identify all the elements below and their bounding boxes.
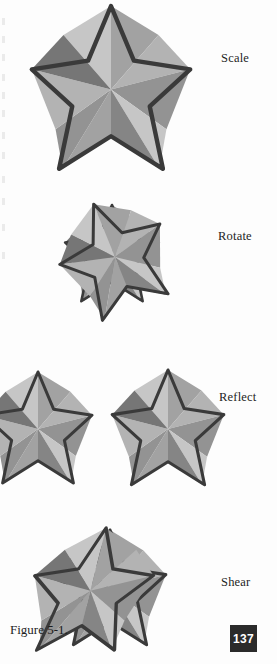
figure-caption: Figure 5-1. bbox=[10, 622, 68, 638]
book-page: .f-a{fill:#c6c6c6} .f-b{fill:#a2a2a2} .f… bbox=[0, 0, 277, 664]
star-reflect-original bbox=[0, 372, 92, 483]
label-shear: Shear bbox=[221, 575, 250, 590]
figure-star-transformations: .f-a{fill:#c6c6c6} .f-b{fill:#a2a2a2} .f… bbox=[0, 0, 277, 664]
star-rotate-transformed bbox=[44, 184, 186, 327]
label-scale: Scale bbox=[221, 51, 249, 66]
label-reflect: Reflect bbox=[219, 390, 257, 405]
page-number-badge: 137 bbox=[230, 625, 257, 652]
star-scale bbox=[32, 6, 190, 169]
label-rotate: Rotate bbox=[218, 229, 252, 244]
star-reflect-transformed bbox=[112, 370, 224, 485]
